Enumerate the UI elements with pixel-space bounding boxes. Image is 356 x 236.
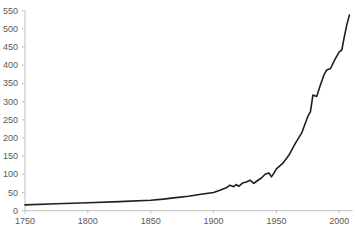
x-tick-label: 1850 bbox=[141, 216, 161, 226]
y-tick-label: 450 bbox=[3, 42, 18, 52]
y-tick-label: 200 bbox=[3, 133, 18, 143]
y-tick-label: 50 bbox=[8, 188, 18, 198]
y-tick-label: 550 bbox=[3, 6, 18, 16]
x-axis: 175018001850190019502000 bbox=[15, 211, 353, 226]
y-axis: 050100150200250300350400450500550 bbox=[3, 6, 25, 216]
y-tick-label: 100 bbox=[3, 169, 18, 179]
x-tick-label: 1750 bbox=[15, 216, 35, 226]
x-tick-label: 1800 bbox=[78, 216, 98, 226]
x-tick-label: 2000 bbox=[329, 216, 349, 226]
x-tick-label: 1900 bbox=[204, 216, 224, 226]
y-tick-label: 0 bbox=[13, 206, 18, 216]
y-tick-label: 350 bbox=[3, 78, 18, 88]
series-group bbox=[25, 15, 349, 205]
y-tick-label: 150 bbox=[3, 151, 18, 161]
line-chart: 050100150200250300350400450500550 175018… bbox=[0, 0, 356, 236]
y-tick-label: 250 bbox=[3, 115, 18, 125]
caption-fragment bbox=[6, 229, 46, 236]
y-tick-label: 300 bbox=[3, 97, 18, 107]
y-tick-label: 400 bbox=[3, 60, 18, 70]
data-line bbox=[25, 15, 349, 205]
y-tick-label: 500 bbox=[3, 24, 18, 34]
x-tick-label: 1950 bbox=[266, 216, 286, 226]
